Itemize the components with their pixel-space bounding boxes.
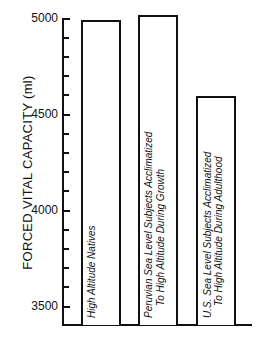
y-minor-tick (63, 229, 69, 231)
y-minor-tick (63, 56, 69, 58)
bar-label: High Altitude Natives (86, 226, 97, 318)
y-minor-tick (63, 267, 69, 269)
y-tick-label: 3500 (4, 299, 58, 313)
y-minor-tick (63, 286, 69, 288)
y-minor-tick (63, 133, 69, 135)
y-tick (63, 210, 70, 212)
y-minor-tick (63, 171, 69, 173)
y-minor-tick (63, 248, 69, 250)
y-tick (63, 306, 70, 308)
y-axis-label: FORCED VITAL CAPACITY (ml) (20, 68, 35, 278)
y-tick-label: 4500 (4, 107, 58, 121)
y-minor-tick (63, 190, 69, 192)
bar-label: U.S. Sea Level Subjects Acclimatized (202, 152, 213, 318)
y-tick (63, 18, 70, 20)
y-tick-label: 5000 (4, 11, 58, 25)
y-minor-tick (63, 152, 69, 154)
bar-label: To High Altitude During Adulthood (213, 156, 224, 306)
y-minor-tick (63, 75, 69, 77)
y-tick-label: 4000 (4, 203, 58, 217)
y-minor-tick (63, 94, 69, 96)
y-tick (63, 114, 70, 116)
bar-label: To High Altitude During Growth (155, 169, 166, 306)
y-minor-tick (63, 37, 69, 39)
bar-label: Peruvian Sea Level Subjects Acclimatized (143, 132, 154, 318)
